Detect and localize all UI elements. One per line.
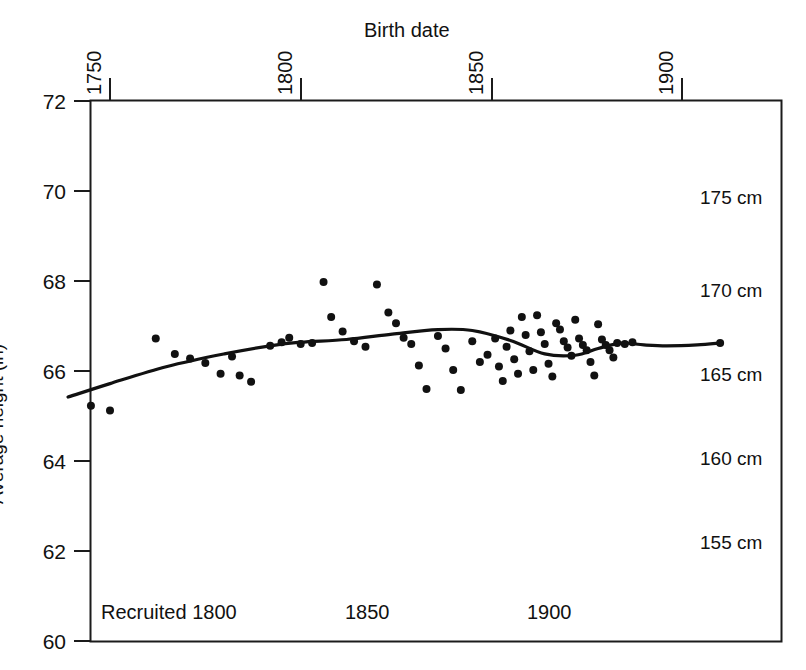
data-point xyxy=(87,402,95,410)
data-point xyxy=(571,316,579,324)
data-point xyxy=(400,334,408,342)
data-point xyxy=(545,360,553,368)
data-point xyxy=(392,319,400,327)
data-point xyxy=(217,370,225,378)
data-point xyxy=(457,386,465,394)
data-point xyxy=(529,366,537,374)
data-point xyxy=(415,362,423,370)
data-point xyxy=(590,372,598,380)
data-point xyxy=(423,385,431,393)
data-point xyxy=(514,370,522,378)
scatter-points-layer xyxy=(87,278,637,415)
chart-canvas xyxy=(0,0,806,670)
x-tick-label-1750: 1750 xyxy=(84,51,104,96)
data-point xyxy=(201,359,209,367)
data-point xyxy=(484,351,492,359)
x-axis-ticks xyxy=(110,78,682,100)
y-tick-label-68: 68 xyxy=(34,271,66,292)
data-point xyxy=(510,355,518,363)
data-point xyxy=(609,354,617,362)
data-point xyxy=(373,281,381,289)
y-tick-label-72: 72 xyxy=(34,91,66,112)
data-point xyxy=(327,313,335,321)
data-point xyxy=(339,327,347,335)
x-tick-label-1800: 1800 xyxy=(275,51,295,96)
recruited-label-1800: Recruited 1800 xyxy=(101,602,237,622)
data-point xyxy=(506,327,514,335)
recruited-label-1900: 1900 xyxy=(527,602,572,622)
y-tick-label-62: 62 xyxy=(34,541,66,562)
plot-frame xyxy=(91,101,782,642)
x-tick-label-1900: 1900 xyxy=(656,51,676,96)
y-tick-label-60: 60 xyxy=(34,631,66,652)
y-axis-title: Average height (in) xyxy=(0,344,6,504)
data-point xyxy=(586,358,594,366)
cm-label-155: 155 cm xyxy=(700,533,762,552)
y-tick-label-64: 64 xyxy=(34,451,66,472)
data-point xyxy=(468,337,476,345)
data-point xyxy=(533,311,541,319)
data-point xyxy=(548,372,556,380)
data-point xyxy=(247,378,255,386)
data-point xyxy=(236,372,244,380)
cm-label-175: 175 cm xyxy=(700,188,762,207)
data-point xyxy=(556,326,564,334)
x-tick-label-1850: 1850 xyxy=(466,51,486,96)
data-point xyxy=(285,334,293,342)
y-tick-label-66: 66 xyxy=(34,361,66,382)
data-point xyxy=(152,335,160,343)
data-point xyxy=(537,328,545,336)
data-point xyxy=(361,343,369,351)
data-point xyxy=(564,344,572,352)
data-point xyxy=(541,340,549,348)
y-tick-label-70: 70 xyxy=(34,181,66,202)
page-edge-strip xyxy=(0,655,806,670)
data-point xyxy=(407,340,415,348)
y-axis-ticks xyxy=(74,101,90,641)
data-point xyxy=(434,332,442,340)
data-point xyxy=(503,343,511,351)
data-point xyxy=(522,331,530,339)
data-point xyxy=(171,350,179,358)
data-point xyxy=(518,313,526,321)
cm-label-165: 165 cm xyxy=(700,365,762,384)
data-point xyxy=(442,345,450,353)
cm-label-160: 160 cm xyxy=(700,449,762,468)
data-point xyxy=(594,320,602,328)
chart-figure: Birth date 1750 1800 1850 1900 72 70 68 … xyxy=(0,0,806,670)
data-point xyxy=(476,358,484,366)
data-point xyxy=(499,377,507,385)
data-point xyxy=(320,278,328,286)
trend-line-layer xyxy=(68,329,724,397)
data-point xyxy=(106,407,114,415)
cm-label-170: 170 cm xyxy=(700,281,762,300)
data-point xyxy=(449,366,457,374)
top-axis-title: Birth date xyxy=(364,20,450,40)
recruited-label-1850: 1850 xyxy=(345,602,390,622)
data-point xyxy=(384,309,392,317)
data-point xyxy=(495,363,503,371)
